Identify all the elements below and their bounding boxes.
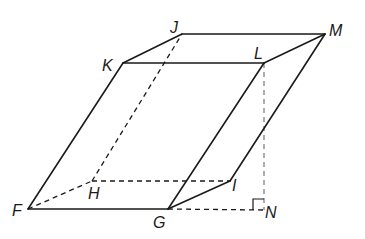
hidden-edge-gn <box>168 209 264 210</box>
edge-fk <box>28 63 123 209</box>
vertex-label-l: L <box>254 46 263 62</box>
vertex-label-i: I <box>232 178 236 194</box>
vertex-label-g: G <box>153 215 165 231</box>
vertex-label-m: M <box>329 23 342 39</box>
vertex-label-f: F <box>12 203 22 219</box>
solid-edges <box>28 34 325 209</box>
hidden-edges <box>28 34 264 210</box>
prism-figure <box>0 0 365 239</box>
vertex-label-j: J <box>170 20 178 36</box>
vertex-label-k: K <box>102 58 113 74</box>
right-angle-marker <box>253 199 264 210</box>
vertex-label-h: H <box>88 186 100 202</box>
vertex-label-n: N <box>265 205 277 221</box>
right-angle-icon <box>253 199 264 210</box>
prism-diagram: F G H I J K L M N <box>0 0 365 239</box>
